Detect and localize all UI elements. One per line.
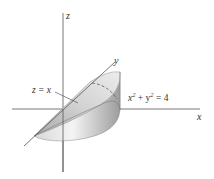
- z-axis-label: z: [65, 10, 70, 21]
- plane-equation-label: z = x: [31, 85, 52, 95]
- y-axis-label: y: [113, 55, 119, 66]
- cyl-plus-y: + y: [135, 93, 150, 103]
- x-axis-label: x: [196, 111, 202, 122]
- cyl-rhs: = 4: [154, 93, 169, 103]
- diagram-canvas: z y x z = x x2 + y2 = 4: [0, 0, 214, 179]
- cylinder-equation-label: x2 + y2 = 4: [127, 91, 169, 103]
